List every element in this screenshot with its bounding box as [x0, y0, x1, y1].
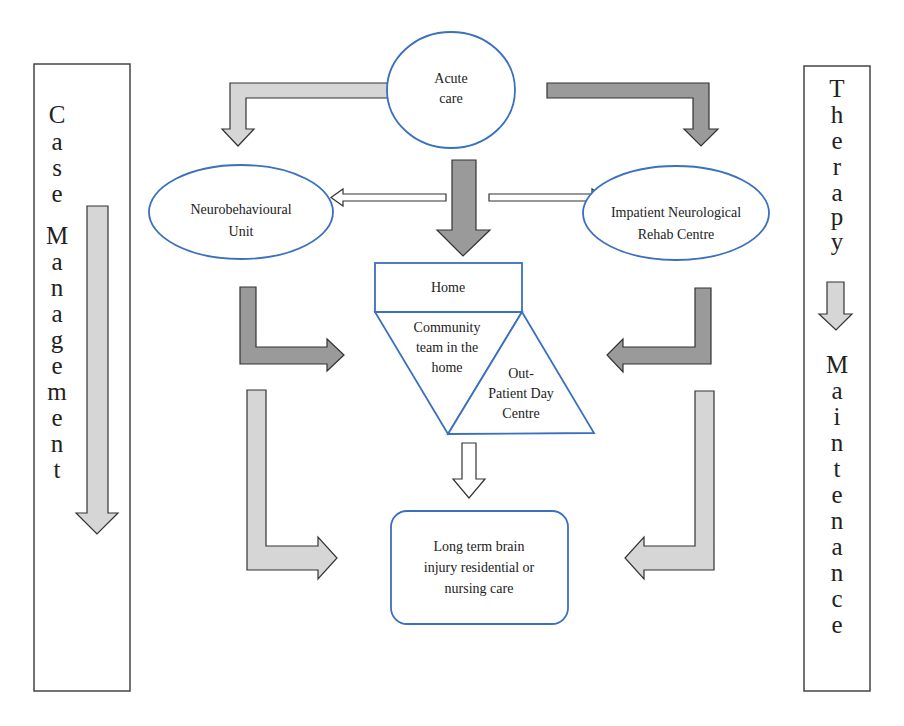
node-home: Home	[375, 263, 522, 312]
letter: a	[831, 377, 842, 404]
arrow-outpatient-to-longterm-icon	[453, 443, 485, 498]
letter: e	[831, 481, 842, 508]
arrow-acute-to-rehab-icon	[547, 83, 718, 146]
letter: e	[831, 127, 842, 154]
arrow-neuro-to-community-icon	[240, 287, 344, 371]
svg-text:Community: Community	[414, 320, 481, 335]
svg-text:care: care	[439, 91, 462, 106]
arrow-acute-to-home-icon	[437, 160, 490, 256]
svg-text:Acute: Acute	[434, 71, 467, 86]
letter: c	[831, 585, 842, 612]
node-neurobehavioural-unit: Neurobehavioural Unit	[149, 165, 333, 259]
svg-text:Home: Home	[431, 280, 465, 295]
letter: a	[831, 533, 842, 560]
letter: i	[834, 403, 841, 430]
letter: t	[834, 455, 841, 482]
letter: r	[833, 153, 842, 180]
letter: a	[831, 179, 842, 206]
arrow-neuro-to-longterm-icon	[247, 390, 337, 579]
svg-text:team in the: team in the	[416, 340, 478, 355]
therapy-maintenance-panel: T h e r a p y M a i n t e n a n c e	[804, 66, 870, 691]
arrow-rehab-to-longterm-icon	[625, 391, 714, 579]
letter: m	[47, 378, 67, 405]
letter: n	[831, 559, 844, 586]
svg-text:Neurobehavioural: Neurobehavioural	[190, 202, 291, 217]
letter: p	[831, 203, 844, 230]
letter: e	[51, 404, 62, 431]
arrow-rehab-to-outpatient-icon	[607, 288, 711, 372]
letter: a	[51, 128, 62, 155]
letter: e	[51, 180, 62, 207]
letter: s	[52, 154, 62, 181]
letter: e	[831, 611, 842, 638]
svg-text:home: home	[431, 360, 462, 375]
node-impatient-rehab-centre: Impatient Neurological Rehab Centre	[583, 166, 769, 260]
letter: n	[51, 430, 64, 457]
letter: g	[51, 326, 64, 353]
letter: a	[51, 300, 62, 327]
letter: h	[831, 101, 844, 128]
letter: t	[54, 456, 61, 483]
letter: C	[49, 101, 66, 128]
case-management-panel: C a s e M a n a g e m e n t	[34, 64, 130, 691]
letter: M	[826, 351, 848, 378]
arrow-to-neuro-thin-icon	[331, 189, 446, 206]
svg-text:Rehab Centre: Rehab Centre	[638, 227, 715, 242]
letter: n	[831, 507, 844, 534]
node-long-term-care: Long term brain injury residential or nu…	[391, 511, 568, 624]
svg-text:Impatient Neurological: Impatient Neurological	[611, 205, 741, 220]
letter: n	[51, 274, 64, 301]
svg-text:nursing care: nursing care	[445, 581, 514, 596]
svg-text:Out-: Out-	[508, 366, 534, 381]
letter: n	[831, 429, 844, 456]
letter: a	[51, 248, 62, 275]
svg-text:injury residential or: injury residential or	[424, 560, 535, 575]
svg-text:Long term brain: Long term brain	[434, 539, 525, 554]
letter: e	[51, 352, 62, 379]
care-pathway-diagram: C a s e M a n a g e m e n t T h e r a p …	[0, 0, 904, 726]
svg-text:Patient Day: Patient Day	[488, 386, 554, 401]
node-acute-care: Acute care	[387, 32, 515, 148]
arrow-acute-to-neuro-icon	[222, 83, 391, 146]
svg-text:Centre: Centre	[502, 406, 539, 421]
letter: M	[46, 222, 68, 249]
letter: y	[831, 228, 844, 255]
svg-text:Unit: Unit	[229, 224, 254, 239]
letter: T	[829, 75, 844, 102]
